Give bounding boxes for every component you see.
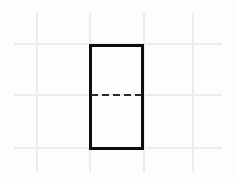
drawing-canvas — [0, 0, 237, 179]
rectangle-outline — [89, 44, 144, 150]
figure-layer — [0, 0, 237, 179]
horizontal-centerline — [91, 94, 142, 96]
